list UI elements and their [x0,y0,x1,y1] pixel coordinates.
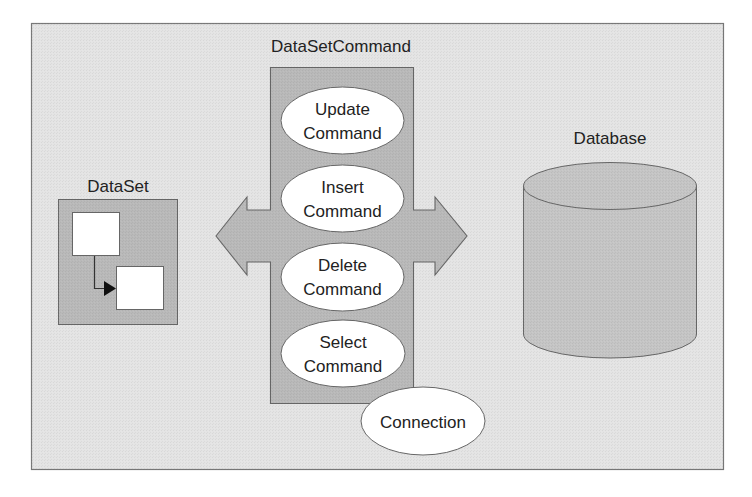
svg-text:Command: Command [304,357,382,376]
connection-node: Connection [361,387,485,455]
select-command-node: Select Command [281,320,405,387]
svg-text:Update: Update [315,100,370,119]
dataset-block: DataSet [59,177,178,325]
svg-text:Command: Command [303,124,381,143]
update-command-node: Update Command [281,87,404,154]
svg-text:Connection: Connection [380,413,466,432]
svg-text:Command: Command [303,202,381,221]
dataset-table-1 [73,213,120,256]
svg-text:Delete: Delete [318,256,367,275]
dataset-title: DataSet [87,177,149,196]
svg-text:Select: Select [319,333,367,352]
insert-command-node: Insert Command [281,165,404,232]
diagram-canvas: DataSet DataSetCommand Update Command In… [0,0,752,497]
dataset-table-2 [117,267,164,310]
database-title: Database [574,129,647,148]
delete-command-node: Delete Command [281,243,404,311]
svg-text:Insert: Insert [321,178,364,197]
svg-text:Command: Command [303,280,381,299]
dataset-command-title: DataSetCommand [271,37,411,56]
